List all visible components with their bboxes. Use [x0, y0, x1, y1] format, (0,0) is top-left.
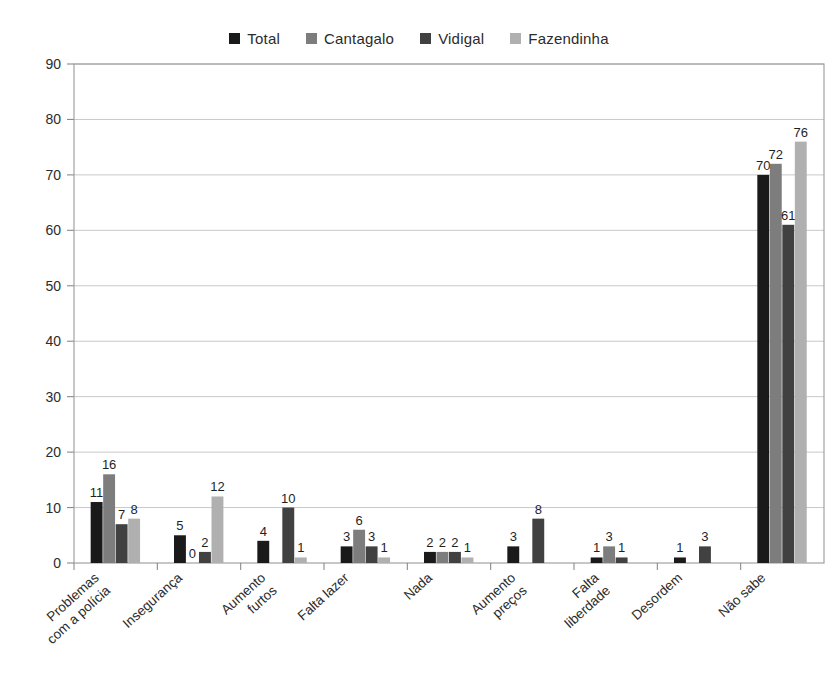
- x-axis-category-line: Desordem: [629, 570, 685, 623]
- bar: [341, 546, 353, 563]
- bar-value-label: 61: [781, 208, 795, 223]
- bar-value-label: 4: [260, 524, 267, 539]
- bar-value-label: 0: [189, 546, 196, 561]
- bar: [795, 142, 807, 563]
- y-axis-tick-label: 80: [45, 111, 61, 127]
- y-axis-tick-label: 30: [45, 389, 61, 405]
- legend-item: Cantagalo: [306, 30, 394, 47]
- bar: [282, 508, 294, 563]
- bar-value-label: 11: [90, 485, 104, 500]
- y-axis-tick-label: 60: [45, 222, 61, 238]
- bar: [782, 225, 794, 563]
- bar: [116, 524, 128, 563]
- bar-value-label: 1: [593, 540, 600, 555]
- plot-border: [74, 64, 824, 563]
- bar: [616, 557, 628, 563]
- bar: [295, 557, 307, 563]
- x-axis-category-label: Problemascom a polícia: [33, 570, 114, 647]
- bar: [437, 552, 449, 563]
- bar: [174, 535, 186, 563]
- bar-value-label: 3: [701, 529, 708, 544]
- y-axis-tick-label: 40: [45, 333, 61, 349]
- legend-swatch-icon: [420, 33, 431, 44]
- bar-value-label: 2: [439, 535, 446, 550]
- bar: [507, 546, 519, 563]
- x-axis-category-label: Não sabe: [715, 570, 768, 620]
- bar: [91, 502, 103, 563]
- x-axis-category-label: Aumentopreços: [468, 570, 530, 630]
- legend-swatch-icon: [306, 33, 317, 44]
- legend-item: Total: [229, 30, 280, 47]
- bar-value-label: 2: [426, 535, 433, 550]
- bar-value-label: 1: [464, 540, 471, 555]
- bar: [257, 541, 269, 563]
- bar: [532, 519, 544, 563]
- bar: [449, 552, 461, 563]
- bar-value-label: 3: [606, 529, 613, 544]
- legend-item-label: Fazendinha: [528, 30, 608, 47]
- bar-value-label: 8: [131, 502, 138, 517]
- x-axis-category-line: Nada: [401, 570, 435, 603]
- y-axis-tick-label: 50: [45, 278, 61, 294]
- bar: [366, 546, 378, 563]
- bar: [603, 546, 615, 563]
- bar: [770, 164, 782, 563]
- legend-item-label: Cantagalo: [324, 30, 394, 47]
- bar: [757, 175, 769, 563]
- bar-value-label: 6: [356, 513, 363, 528]
- x-axis-category-line: Falta lazer: [295, 570, 352, 624]
- bar: [378, 557, 390, 563]
- bar-chart: TotalCantagaloVidigalFazendinha 01020304…: [0, 0, 838, 675]
- bar-value-label: 1: [297, 540, 304, 555]
- bar-value-label: 1: [618, 540, 625, 555]
- bar: [674, 557, 686, 563]
- legend-item-label: Vidigal: [438, 30, 484, 47]
- bar: [462, 557, 474, 563]
- bar-value-label: 8: [535, 502, 542, 517]
- legend-item: Fazendinha: [510, 30, 608, 47]
- chart-plot-area: 0102030405060708090111678Problemascom a …: [0, 0, 838, 675]
- bar-value-label: 3: [343, 529, 350, 544]
- bar-value-label: 12: [210, 479, 224, 494]
- x-axis-category-label: Nada: [401, 570, 435, 603]
- bar-value-label: 76: [794, 125, 808, 140]
- bar-value-label: 1: [381, 540, 388, 555]
- x-axis-category-label: Faltaliberdade: [550, 570, 613, 631]
- x-axis-category-label: Insegurança: [120, 570, 186, 631]
- legend-swatch-icon: [510, 33, 521, 44]
- bar: [103, 474, 115, 563]
- y-axis-tick-label: 70: [45, 167, 61, 183]
- x-axis-category-line: Insegurança: [120, 570, 186, 631]
- bar: [212, 496, 224, 563]
- bar-value-label: 1: [676, 540, 683, 555]
- y-axis-tick-label: 20: [45, 444, 61, 460]
- bar: [591, 557, 603, 563]
- x-axis-category-line: Não sabe: [715, 570, 768, 620]
- x-axis-category-label: Aumentofurtos: [218, 570, 280, 630]
- bar-value-label: 72: [769, 147, 783, 162]
- bar: [353, 530, 365, 563]
- legend-item: Vidigal: [420, 30, 484, 47]
- bar-value-label: 3: [510, 529, 517, 544]
- bar: [699, 546, 711, 563]
- x-axis-category-label: Falta lazer: [295, 570, 352, 624]
- bar-value-label: 2: [451, 535, 458, 550]
- legend-item-label: Total: [247, 30, 280, 47]
- y-axis-tick-label: 90: [45, 56, 61, 72]
- bar-value-label: 5: [176, 518, 183, 533]
- chart-legend: TotalCantagaloVidigalFazendinha: [0, 30, 838, 47]
- x-axis-category-label: Desordem: [629, 570, 685, 623]
- bar: [199, 552, 211, 563]
- bar-value-label: 3: [368, 529, 375, 544]
- bar-value-label: 2: [201, 535, 208, 550]
- legend-swatch-icon: [229, 33, 240, 44]
- bar: [424, 552, 436, 563]
- y-axis-tick-label: 0: [53, 555, 61, 571]
- bar-value-label: 7: [118, 507, 125, 522]
- bar-value-label: 16: [102, 457, 116, 472]
- bar-value-label: 10: [281, 491, 295, 506]
- y-axis-tick-label: 10: [45, 500, 61, 516]
- bar: [128, 519, 140, 563]
